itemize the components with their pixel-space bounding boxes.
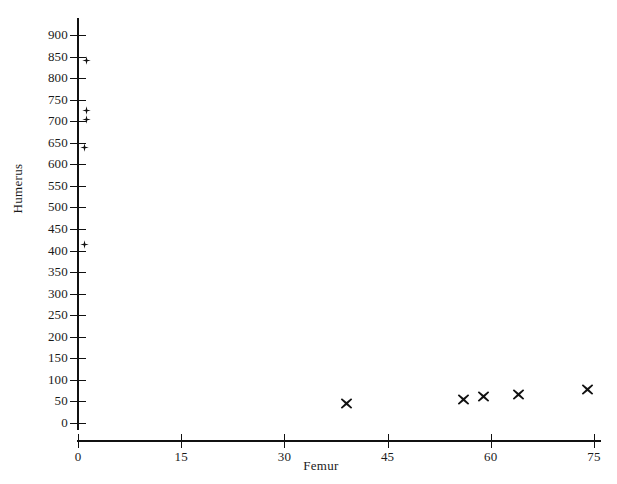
y-axis-tick-label: 600 (22, 157, 68, 170)
y-axis-tick-label: 150 (22, 351, 68, 364)
y-axis-tick-label: 900 (22, 28, 68, 41)
y-axis-tick-label: 700 (22, 114, 68, 127)
x-axis-tick (284, 434, 285, 448)
y-axis-tick (70, 358, 86, 359)
data-point-cross-marker (457, 393, 470, 406)
data-point-plus-marker (79, 239, 90, 250)
y-axis-tick-label: 350 (22, 265, 68, 278)
y-axis-tick (70, 423, 86, 424)
data-point-plus-marker (81, 105, 92, 116)
y-axis-tick (70, 35, 86, 36)
y-axis-tick (70, 57, 86, 58)
y-axis-tick-label: 200 (22, 330, 68, 343)
y-axis-tick-label: 100 (22, 373, 68, 386)
y-axis-tick-label: 0 (22, 416, 68, 429)
x-axis-tick-label: 0 (58, 450, 98, 463)
y-axis-tick-label: 50 (22, 394, 68, 407)
y-axis-tick (70, 380, 86, 381)
data-point-cross-marker (581, 383, 594, 396)
y-axis-tick (70, 251, 86, 252)
plot-area (0, 0, 617, 484)
y-axis-tick-label: 850 (22, 50, 68, 63)
y-axis-tick-label: 500 (22, 200, 68, 213)
y-axis-tick-label: 250 (22, 308, 68, 321)
x-axis-title: Femur (281, 459, 361, 472)
y-axis-tick (70, 294, 86, 295)
y-axis-tick (70, 207, 86, 208)
y-axis-tick (70, 100, 86, 101)
data-point-cross-marker (340, 397, 353, 410)
y-axis-tick-label: 800 (22, 71, 68, 84)
x-axis-line (77, 440, 601, 442)
x-axis-tick (181, 434, 182, 448)
y-axis-tick (70, 401, 86, 402)
x-axis-tick (491, 434, 492, 448)
x-axis-tick-label: 60 (471, 450, 511, 463)
x-axis-tick-label: 75 (574, 450, 614, 463)
y-axis-tick (70, 78, 86, 79)
x-axis-tick-label: 45 (368, 450, 408, 463)
y-axis-tick (70, 186, 86, 187)
x-axis-tick (78, 434, 79, 448)
y-axis-tick-label: 550 (22, 179, 68, 192)
x-axis-tick (388, 434, 389, 448)
y-axis-tick (70, 229, 86, 230)
y-axis-tick-label: 450 (22, 222, 68, 235)
y-axis-tick (70, 143, 86, 144)
y-axis-title: Humerus (11, 154, 24, 224)
y-axis-tick-label: 650 (22, 136, 68, 149)
data-point-plus-marker (79, 142, 90, 153)
data-point-cross-marker (477, 390, 490, 403)
y-axis-tick (70, 164, 86, 165)
y-axis-tick-label: 300 (22, 287, 68, 300)
y-axis-tick (70, 337, 86, 338)
x-axis-tick-label: 15 (161, 450, 201, 463)
scatter-plot-figure: 0501001502002503003504004505005506006507… (0, 0, 617, 484)
y-axis-tick (70, 315, 86, 316)
data-point-cross-marker (512, 388, 525, 401)
y-axis-line (77, 18, 79, 430)
y-axis-tick-label: 750 (22, 93, 68, 106)
y-axis-tick (70, 272, 86, 273)
y-axis-tick (70, 121, 86, 122)
x-axis-tick (594, 434, 595, 448)
y-axis-tick-label: 400 (22, 244, 68, 257)
data-point-plus-marker (81, 114, 92, 125)
